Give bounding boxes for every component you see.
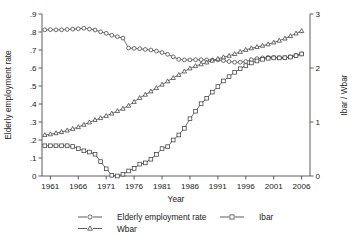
data-point-marker-1 (244, 64, 248, 68)
data-point-marker-1 (160, 147, 164, 151)
right-y-axis-tick-label: 1 (316, 118, 321, 127)
data-point-marker-1 (183, 126, 187, 130)
data-point-marker-1 (65, 144, 69, 148)
x-axis-tick-label: 1981 (153, 182, 172, 191)
data-point-marker-1 (222, 79, 226, 83)
data-point-marker-1 (110, 173, 114, 177)
data-point-marker-1 (149, 157, 153, 161)
x-axis-tick-label: 1996 (237, 182, 256, 191)
right-y-axis-title: Ibar / Wbar (339, 74, 349, 115)
data-point-marker-0 (155, 49, 159, 53)
data-point-marker-1 (71, 145, 75, 149)
data-point-marker-1 (216, 85, 220, 89)
data-point-marker-0 (177, 57, 181, 61)
data-point-marker-0 (199, 58, 203, 62)
data-point-marker-0 (166, 52, 170, 56)
y-axis-tick-label: .7 (30, 46, 37, 55)
data-point-marker-1 (93, 152, 97, 156)
data-point-marker-0 (171, 55, 175, 59)
data-point-marker-0 (244, 60, 248, 64)
data-point-marker-1 (49, 144, 53, 148)
right-y-axis-tick-label: 0 (316, 172, 321, 181)
data-point-marker-1 (166, 145, 170, 149)
chart-background (0, 0, 357, 246)
data-point-marker-0 (222, 59, 226, 63)
y-axis-tick-label: .1 (30, 154, 37, 163)
data-point-marker-1 (233, 70, 237, 74)
chart-container: 0.1.2.3.4.5.6.7.8.9012319611966197119761… (0, 0, 357, 246)
y-axis-tick-label: .6 (30, 64, 37, 73)
data-point-marker-0 (65, 28, 69, 32)
data-point-marker-1 (155, 153, 159, 157)
data-point-marker-1 (250, 61, 254, 65)
data-point-marker-0 (227, 60, 231, 64)
data-point-marker-0 (188, 58, 192, 62)
y-axis-title: Elderly employment rate (3, 50, 13, 140)
data-point-marker-0 (60, 28, 64, 32)
data-point-marker-1 (199, 102, 203, 106)
x-axis-tick-label: 2001 (265, 182, 284, 191)
data-point-marker-0 (138, 47, 142, 51)
data-point-marker-1 (272, 56, 276, 60)
data-point-marker-1 (82, 149, 86, 153)
data-point-marker-0 (48, 28, 52, 32)
data-point-marker-0 (115, 35, 119, 39)
x-axis-tick-label: 1971 (97, 182, 116, 191)
x-axis-title: Year (168, 194, 185, 204)
data-point-marker-1 (261, 58, 265, 62)
data-point-marker-0 (233, 60, 237, 64)
data-point-marker-legend (88, 215, 92, 219)
y-axis-tick-label: .9 (30, 10, 37, 19)
data-point-marker-0 (110, 33, 114, 37)
data-point-marker-1 (88, 150, 92, 154)
data-point-marker-1 (266, 56, 270, 60)
data-point-marker-1 (127, 169, 131, 173)
y-axis-tick-label: .5 (30, 82, 37, 91)
x-axis-tick-label: 1976 (125, 182, 144, 191)
data-point-marker-1 (238, 67, 242, 71)
data-point-marker-1 (60, 144, 64, 148)
data-point-marker-1 (43, 144, 47, 148)
y-axis-tick-label: .4 (30, 100, 37, 109)
line-chart: 0.1.2.3.4.5.6.7.8.9012319611966197119761… (0, 0, 357, 246)
x-axis-tick-label: 2006 (293, 182, 312, 191)
data-point-marker-0 (121, 36, 125, 40)
data-point-marker-0 (93, 28, 97, 32)
data-point-marker-1 (143, 161, 147, 165)
data-point-marker-0 (238, 60, 242, 64)
data-point-marker-1 (177, 133, 181, 137)
y-axis-tick-label: 0 (32, 172, 37, 181)
data-point-marker-1 (300, 52, 304, 56)
data-point-marker-0 (104, 31, 108, 35)
y-axis-tick-label: .3 (30, 118, 37, 127)
data-point-marker-1 (138, 162, 142, 166)
data-point-marker-1 (283, 56, 287, 60)
data-point-marker-0 (132, 46, 136, 50)
data-point-marker-1 (289, 55, 293, 59)
legend-label: Wbar (117, 224, 137, 234)
x-axis-tick-label: 1986 (181, 182, 200, 191)
data-point-marker-1 (205, 96, 209, 100)
data-point-marker-0 (88, 27, 92, 31)
data-point-marker-0 (194, 58, 198, 62)
right-y-axis-tick-label: 2 (316, 64, 321, 73)
data-point-marker-0 (182, 58, 186, 62)
data-point-marker-1 (171, 138, 175, 142)
data-point-marker-1 (116, 174, 120, 178)
data-point-marker-0 (160, 51, 164, 55)
y-axis-tick-label: .8 (30, 28, 37, 37)
x-axis-tick-label: 1991 (209, 182, 228, 191)
data-point-marker-1 (76, 147, 80, 151)
legend-label: Ibar (259, 212, 274, 222)
data-point-marker-1 (104, 167, 108, 171)
data-point-marker-1 (132, 167, 136, 171)
right-y-axis-tick-label: 3 (316, 10, 321, 19)
data-point-marker-0 (149, 48, 153, 52)
data-point-marker-1 (210, 90, 214, 94)
data-point-marker-1 (121, 172, 125, 176)
data-point-marker-1 (255, 59, 259, 63)
data-point-marker-0 (71, 27, 75, 31)
data-point-marker-1 (188, 117, 192, 121)
data-point-marker-1 (99, 160, 103, 164)
data-point-marker-1 (54, 144, 58, 148)
